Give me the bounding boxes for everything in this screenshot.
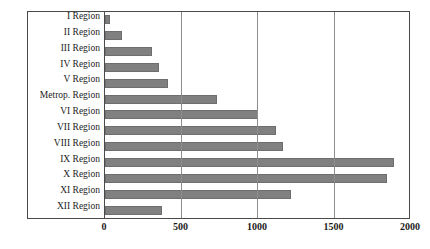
category-label: I Region <box>67 12 100 22</box>
bar <box>105 79 168 88</box>
x-tick-label: 0 <box>102 222 107 232</box>
bar-row: XII Region <box>28 202 409 219</box>
category-label: III Region <box>61 44 100 54</box>
x-tick-label: 500 <box>173 222 188 232</box>
category-label: XII Region <box>57 202 100 212</box>
category-label: VII Region <box>57 123 100 133</box>
category-label: X Region <box>63 170 100 180</box>
bar <box>105 174 387 183</box>
bar <box>105 190 291 199</box>
bar <box>105 110 258 119</box>
plot-area: I RegionII RegionIII RegionIV RegionV Re… <box>27 11 410 219</box>
category-label: V Region <box>63 75 100 85</box>
x-tick-label: 1000 <box>247 222 267 232</box>
gridline-0 <box>104 12 105 218</box>
bar <box>105 206 162 215</box>
x-tick-label: 2000 <box>400 222 420 232</box>
gridline-1500 <box>334 12 335 218</box>
category-label: VIII Region <box>54 139 100 149</box>
category-label: VI Region <box>60 107 100 117</box>
bar <box>105 126 276 135</box>
bar <box>105 47 152 56</box>
category-label: IV Region <box>60 60 100 70</box>
bar <box>105 63 159 72</box>
bar-chart: I RegionII RegionIII RegionIV RegionV Re… <box>0 0 430 249</box>
category-label: II Region <box>64 28 100 38</box>
bar <box>105 95 217 104</box>
category-label: Metrop. Region <box>40 91 100 101</box>
bar <box>105 158 394 167</box>
bar-rows: I RegionII RegionIII RegionIV RegionV Re… <box>28 12 409 218</box>
bar <box>105 15 110 24</box>
bar <box>105 31 122 40</box>
category-label: IX Region <box>60 155 100 165</box>
x-tick-label: 1500 <box>324 222 344 232</box>
gridline-1000 <box>257 12 258 218</box>
category-label: XI Region <box>60 186 100 196</box>
gridline-500 <box>181 12 182 218</box>
